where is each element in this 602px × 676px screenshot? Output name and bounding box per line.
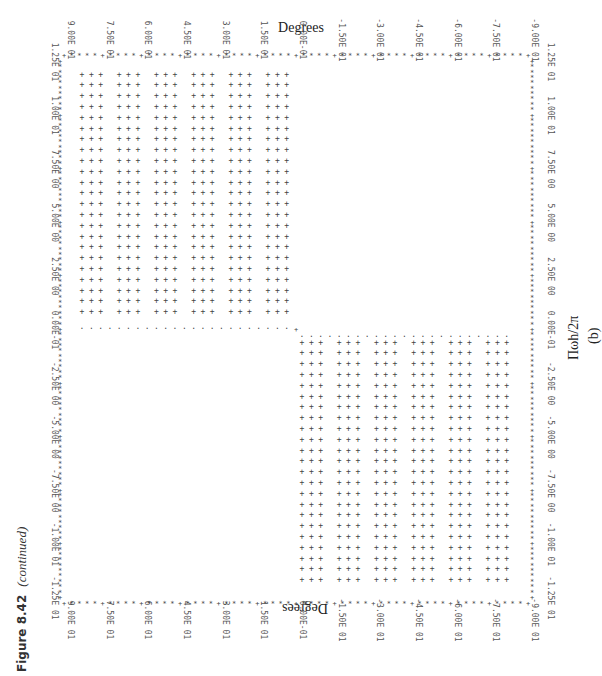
plot-mark: +	[467, 521, 472, 530]
plot-mark: +	[247, 124, 252, 133]
plot-mark: +	[98, 296, 103, 305]
plot-mark: +	[495, 543, 500, 552]
plot-mark: +	[163, 210, 168, 219]
plot-mark: +	[80, 145, 85, 154]
plot-mark: +	[458, 478, 463, 487]
plot-mark: +	[275, 134, 280, 143]
plot-mark: +	[126, 91, 131, 100]
plot-mark: +	[300, 510, 305, 519]
plot-mark: +	[228, 232, 233, 241]
plot-mark: +	[420, 402, 425, 411]
plot-mark: +	[210, 113, 215, 122]
plot-mark: +	[154, 264, 159, 273]
plot-mark: +	[430, 543, 435, 552]
plot-mark: +	[126, 113, 131, 122]
plot-mark: +	[284, 80, 289, 89]
plot-mark: +	[355, 348, 360, 357]
plot-mark: +	[318, 532, 323, 541]
plot-mark: +	[117, 264, 122, 273]
plot-mark: +	[355, 413, 360, 422]
plot-mark: +	[467, 424, 472, 433]
plot-mark: +	[495, 510, 500, 519]
plot-mark: .	[393, 330, 398, 339]
plot-mark: +	[284, 242, 289, 251]
plot-mark: +	[154, 275, 159, 284]
plot-mark: +	[200, 156, 205, 165]
plot-mark: +	[411, 510, 416, 519]
plot-mark: +	[89, 102, 94, 111]
plot-mark: +	[275, 102, 280, 111]
plot-mark: *	[286, 52, 290, 60]
plot-mark: +	[504, 510, 509, 519]
plot-mark: +	[337, 446, 342, 455]
plot-mark: +	[135, 199, 140, 208]
plot-mark: +	[80, 156, 85, 165]
plot-mark: *	[456, 600, 460, 608]
plot-mark: +	[80, 113, 85, 122]
plot-mark: .	[98, 322, 103, 331]
plot-mark: +	[275, 210, 280, 219]
plot-mark: +	[117, 80, 122, 89]
plot-mark: +	[309, 510, 314, 519]
plot-mark: +	[200, 145, 205, 154]
plot-mark: +	[275, 124, 280, 133]
plot-mark: +	[238, 221, 243, 230]
plot-mark: .	[458, 330, 463, 339]
plot-mark: +	[117, 156, 122, 165]
plot-mark: +	[135, 167, 140, 176]
plot-mark: +	[98, 286, 103, 295]
plot-mark: +	[383, 413, 388, 422]
plot-mark: *	[325, 600, 329, 608]
plot-mark: +	[393, 446, 398, 455]
plot-mark: +	[486, 575, 491, 584]
plot-mark: +	[191, 113, 196, 122]
plot-mark: +	[346, 370, 351, 379]
plot-mark: +	[355, 435, 360, 444]
plot-mark: +	[300, 402, 305, 411]
plot-mark: *	[93, 600, 97, 608]
plot-mark: +	[191, 124, 196, 133]
plot-mark: +	[247, 113, 252, 122]
plot-mark: *	[340, 600, 344, 608]
plot-mark: +	[383, 564, 388, 573]
plot-mark: +	[210, 264, 215, 273]
freq-tick-label-right: 2.50E 00	[546, 257, 555, 296]
plot-mark: +	[309, 456, 314, 465]
plot-mark: *	[209, 52, 213, 60]
plot-mark: +	[318, 424, 323, 433]
plot-mark: +	[247, 70, 252, 79]
plot-mark: +	[135, 210, 140, 219]
plot-mark: +	[383, 543, 388, 552]
plot-mark: +	[238, 242, 243, 251]
plot-mark: +	[135, 286, 140, 295]
plot-mark: +	[355, 532, 360, 541]
plot-mark: +	[374, 446, 379, 455]
plot-mark: +	[393, 575, 398, 584]
plot-mark: +	[486, 370, 491, 379]
plot-mark: +	[458, 554, 463, 563]
plot-mark: +	[173, 253, 178, 262]
plot-mark: +	[448, 467, 453, 476]
plot-mark: +	[318, 381, 323, 390]
plot-mark: +	[117, 178, 122, 187]
plot-mark: +	[266, 253, 271, 262]
plot-mark: +	[411, 467, 416, 476]
plot-mark: +	[200, 286, 205, 295]
plot-mark: +	[420, 413, 425, 422]
plot-mark: +	[154, 167, 159, 176]
plot-mark: +	[346, 564, 351, 573]
plot-mark: +	[383, 424, 388, 433]
plot-mark: .	[275, 322, 280, 331]
plot-mark: +	[89, 178, 94, 187]
plot-mark: +	[80, 124, 85, 133]
plot-mark: *	[518, 52, 522, 60]
plot-mark: +	[448, 456, 453, 465]
plot-mark: +	[275, 275, 280, 284]
plot-mark: +	[504, 424, 509, 433]
plot-mark: .	[448, 330, 453, 339]
plot-mark: +	[80, 264, 85, 273]
plot-mark: +	[238, 167, 243, 176]
plot-mark: +	[383, 381, 388, 390]
plot-mark: +	[191, 70, 196, 79]
plot-mark: +	[393, 392, 398, 401]
